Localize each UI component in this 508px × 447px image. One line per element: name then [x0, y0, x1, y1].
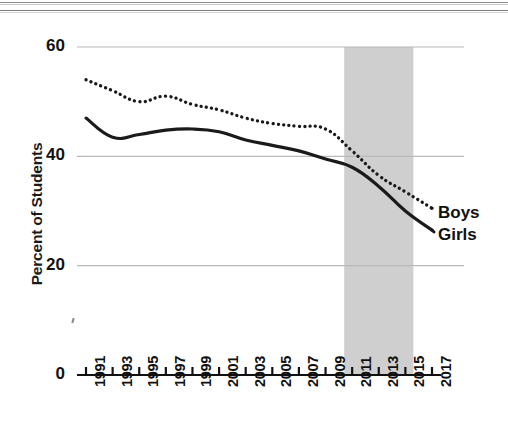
x-tick-label-1999: 1999	[198, 356, 214, 387]
y-axis-title: Percent of Students	[28, 114, 46, 314]
line-chart: Percent of Students 0204060 199119931995…	[0, 0, 508, 447]
x-tick-label-1993: 1993	[119, 356, 135, 387]
girls-leader-line	[432, 230, 434, 232]
x-tick-label-1995: 1995	[145, 356, 161, 387]
x-tick-label-2003: 2003	[252, 356, 268, 387]
x-tick-label-2011: 2011	[358, 357, 374, 387]
x-tick-label-1991: 1991	[92, 356, 108, 387]
x-tick-label-2013: 2013	[385, 356, 401, 387]
series-label-girls: Girls	[438, 225, 477, 245]
y-tick-label-0: 0	[31, 364, 65, 384]
x-tick-label-2007: 2007	[305, 356, 321, 387]
y-tick-label-40: 40	[31, 145, 65, 165]
x-tick-label-2017: 2017	[438, 356, 454, 387]
x-tick-label-2009: 2009	[332, 356, 348, 387]
y-tick-label-60: 60	[31, 36, 65, 56]
series-label-boys: Boys	[438, 203, 480, 223]
x-tick-label-2015: 2015	[411, 356, 427, 387]
x-tick-label-2001: 2001	[225, 356, 241, 387]
x-tick-label-2005: 2005	[278, 356, 294, 387]
chart-page: Percent of Students 0204060 199119931995…	[0, 0, 508, 447]
x-tick-label-1997: 1997	[172, 356, 188, 387]
y-tick-label-20: 20	[31, 255, 65, 275]
